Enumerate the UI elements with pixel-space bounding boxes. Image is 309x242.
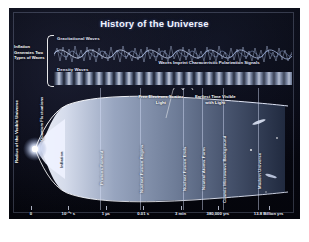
page-title: History of the Universe xyxy=(9,18,300,29)
axis-tick-label: 380,000 yrs xyxy=(207,211,230,216)
axis-tick xyxy=(106,206,107,210)
epoch-label-nuclear-fusion-ends: Nuclear Fusion Ends xyxy=(182,147,187,192)
axis-tick xyxy=(218,206,219,210)
axis-tick-label: 10⁻³⁵ s xyxy=(62,211,76,216)
axis-tick xyxy=(143,206,144,210)
axis-tick-label: 13.8 Billion yrs xyxy=(254,211,284,216)
epoch-label-protons-formed: Protons Formed xyxy=(99,151,104,185)
axis-tick-label: 1 µs xyxy=(102,211,110,216)
epoch-divider xyxy=(100,88,101,210)
expansion-cone-svg xyxy=(23,88,290,210)
axis-tick xyxy=(269,206,270,210)
axis-tick-label: 0.01 s xyxy=(137,211,149,216)
inflation-label: Inflation xyxy=(59,152,64,168)
gravitational-waves-label: Gravitational Waves xyxy=(57,36,100,41)
axis-tick xyxy=(31,206,32,210)
free-electrons-note: Free Electrons Scatter Light xyxy=(138,94,184,105)
inflation-bracket-icon xyxy=(47,35,54,87)
universe-timeline-chart: Protons Formed Nuclear Fusion Begins Nuc… xyxy=(23,88,290,210)
earliest-time-note: Earliest Time Visible with Light xyxy=(191,94,239,105)
poster-panel: History of the Universe Inflation Genera… xyxy=(9,8,300,219)
epoch-label-nuclear-fusion-begins: Nuclear Fusion Begins xyxy=(139,144,144,193)
epoch-divider xyxy=(258,88,259,210)
axis-tick-label: 0 xyxy=(30,211,32,216)
y-axis-wrap: Radius of the Visible Universe xyxy=(23,8,43,219)
axis-tick xyxy=(181,206,182,210)
y-axis-title: Radius of the Visible Universe xyxy=(14,100,19,163)
epoch-label-cmb: Cosmic Microwave Background xyxy=(222,136,227,203)
density-wave-bar xyxy=(54,72,292,85)
x-axis: 0 10⁻³⁵ s 1 µs 0.01 s 3 min 380,000 yrs … xyxy=(23,206,290,210)
axis-tick xyxy=(68,206,69,210)
epoch-label-neutral-atoms-form: Neutral Atoms Form xyxy=(201,147,206,190)
polarization-note: Waves Imprint Characteristic Polarizatio… xyxy=(157,60,261,66)
density-bar-fade xyxy=(202,72,292,85)
epoch-label-modern-universe: Modern Universe xyxy=(257,153,262,189)
screenshot-root: History of the Universe Inflation Genera… xyxy=(0,0,309,242)
axis-tick-label: 3 min xyxy=(175,211,186,216)
